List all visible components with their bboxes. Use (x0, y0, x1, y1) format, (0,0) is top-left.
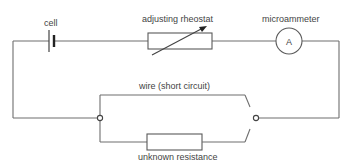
ammeter-glyph: A (286, 37, 292, 47)
label-rheostat: adjusting rheostat (142, 15, 213, 24)
switch-pivot-node (253, 115, 258, 120)
circuit-diagram: A cell adjusting rheostat microammeter w… (0, 0, 351, 167)
rheostat-body (148, 33, 212, 49)
left-junction-node (97, 115, 102, 120)
label-unknown-resistance: unknown resistance (138, 153, 218, 162)
rheostat-symbol (148, 26, 212, 55)
switch-contact-bottom (245, 129, 250, 142)
cell-symbol (49, 30, 54, 52)
label-cell: cell (44, 19, 58, 28)
unknown-resistor-body (147, 134, 202, 150)
switch-contact-top (245, 95, 250, 107)
parallel-branches (97, 95, 258, 150)
ammeter-symbol: A (276, 28, 302, 54)
label-ammeter: microammeter (262, 15, 320, 24)
label-short-wire: wire (short circuit) (139, 82, 210, 91)
